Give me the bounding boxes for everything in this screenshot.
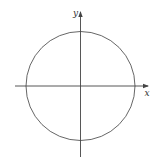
- y-axis-label: y: [72, 8, 79, 18]
- diagram-canvas: x y: [0, 0, 160, 168]
- circle-axes-figure: x y: [0, 0, 160, 168]
- x-axis-label: x: [145, 88, 150, 98]
